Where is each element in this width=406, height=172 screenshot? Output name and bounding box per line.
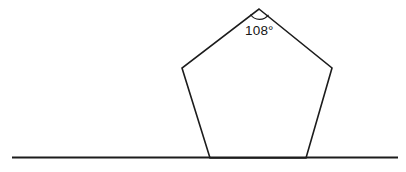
- angle-label: 108°: [245, 23, 274, 38]
- figure-background: [0, 0, 406, 172]
- geometry-figure: 108°: [0, 0, 406, 172]
- figure-canvas: 108°: [0, 0, 406, 172]
